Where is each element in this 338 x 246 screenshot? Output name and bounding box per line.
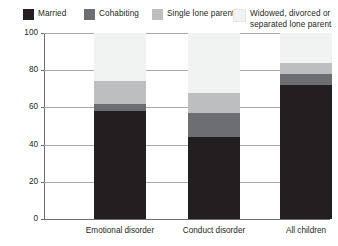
legend-swatch-widowed-divorced-separated <box>233 9 246 22</box>
x-tick-all-children: All children <box>236 226 338 235</box>
bar-segment-widowed <box>94 33 146 81</box>
y-tick-mark-80 <box>41 70 44 71</box>
y-tick-mark-60 <box>41 107 44 108</box>
legend-label-single-lone-parent: Single lone parent <box>167 9 234 20</box>
chart-legend: Married Cohabiting Single lone parent Wi… <box>0 0 338 30</box>
legend-label-cohabiting: Cohabiting <box>99 9 139 20</box>
bar-segment-cohabiting <box>94 104 146 111</box>
legend-item-widowed-divorced-separated: Widowed, divorced or separated lone pare… <box>233 9 331 30</box>
bar-all-children <box>280 33 332 219</box>
bar-emotional-disorder <box>94 33 146 219</box>
bar-segment-widowed <box>188 33 240 93</box>
x-axis-line <box>44 219 330 220</box>
legend-label-married: Married <box>38 9 66 20</box>
y-tick-mark-100 <box>41 33 44 34</box>
bar-segment-cohabiting <box>280 74 332 85</box>
y-tick-40: 40 <box>12 141 38 149</box>
bar-segment-widowed <box>280 33 332 63</box>
bar-segment-married <box>188 137 240 219</box>
y-tick-0: 0 <box>12 215 38 223</box>
y-tick-60: 60 <box>12 103 38 111</box>
bar-segment-married <box>94 111 146 219</box>
y-tick-80: 80 <box>12 66 38 74</box>
bar-segment-married <box>280 85 332 219</box>
bar-segment-single-lone-parent <box>94 81 146 103</box>
legend-swatch-single-lone-parent <box>152 9 163 20</box>
y-tick-mark-20 <box>41 182 44 183</box>
y-tick-20: 20 <box>12 178 38 186</box>
y-tick-mark-0 <box>41 219 44 220</box>
bar-segment-cohabiting <box>188 113 240 137</box>
legend-label-widowed-divorced-separated: Widowed, divorced or separated lone pare… <box>250 9 331 30</box>
bar-segment-single-lone-parent <box>188 93 240 113</box>
bar-conduct-disorder <box>188 33 240 219</box>
y-tick-100: 100 <box>12 29 38 37</box>
y-tick-mark-40 <box>41 145 44 146</box>
legend-swatch-cohabiting <box>84 9 95 20</box>
plot-area <box>44 33 330 219</box>
legend-item-cohabiting: Cohabiting <box>84 9 139 20</box>
bar-segment-single-lone-parent <box>280 63 332 74</box>
legend-swatch-married <box>23 9 34 20</box>
legend-item-married: Married <box>23 9 66 20</box>
legend-item-single-lone-parent: Single lone parent <box>152 9 234 20</box>
stacked-bar-chart: Married Cohabiting Single lone parent Wi… <box>0 0 338 246</box>
